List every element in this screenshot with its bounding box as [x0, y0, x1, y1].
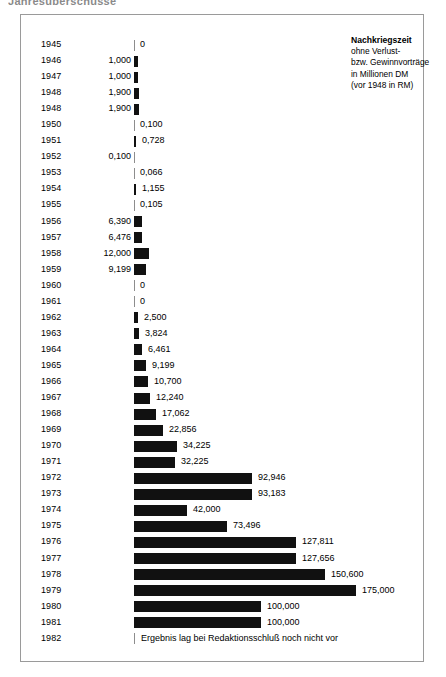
row-year-label: 1974: [41, 504, 75, 514]
chart-bar: [134, 184, 136, 195]
row-value-label: 0,728: [142, 135, 165, 145]
row-value-label: 6,476: [69, 232, 131, 242]
chart-row: 19500,100: [41, 117, 446, 133]
row-value-label: 1,000: [69, 55, 131, 65]
row-value-label: 0,066: [140, 167, 163, 177]
chart-bar: [134, 505, 187, 516]
chart-row: 196712,240: [41, 390, 446, 406]
chart-row: 1981100,000: [41, 615, 446, 631]
chart-row: 19541,155: [41, 181, 446, 197]
zero-axis-tick: [134, 633, 135, 644]
row-value-label: 17,062: [162, 408, 190, 418]
row-year-label: 1969: [41, 424, 75, 434]
row-value-label: 34,225: [183, 440, 211, 450]
chart-frame: Nachkriegszeit ohne Verlust- bzw. Gewinn…: [20, 14, 424, 662]
chart-row: 1982Ergebnis lag bei Redaktionsschluß no…: [41, 631, 446, 647]
chart-row: 197292,946: [41, 470, 446, 486]
zero-axis-tick: [134, 168, 135, 179]
chart-bar: [134, 569, 325, 580]
row-value-label: 0,105: [140, 199, 163, 209]
row-year-label: 1951: [41, 135, 75, 145]
row-value-label: 0: [140, 296, 145, 306]
row-value-label: 32,225: [181, 456, 209, 466]
chart-row: 19633,824: [41, 326, 446, 342]
chart-row: 19461,000: [41, 53, 446, 69]
chart-bar: [134, 376, 148, 387]
row-year-label: 1960: [41, 280, 75, 290]
row-note: Ergebnis lag bei Redaktionsschluß noch n…: [141, 633, 338, 643]
chart-bar: [134, 601, 261, 612]
chart-row: 197573,496: [41, 518, 446, 534]
row-year-label: 1945: [41, 39, 75, 49]
chart-row: 19450: [41, 37, 446, 53]
chart-bar: [134, 104, 139, 115]
chart-row: 1980100,000: [41, 599, 446, 615]
chart-row: 197393,183: [41, 486, 446, 502]
chart-row: 196610,700: [41, 374, 446, 390]
row-value-label: 0: [140, 280, 145, 290]
row-year-label: 1981: [41, 617, 75, 627]
chart-row: 19599,199: [41, 262, 446, 278]
chart-row: 1977127,656: [41, 551, 446, 567]
row-value-label: 12,000: [69, 248, 131, 258]
row-year-label: 1964: [41, 344, 75, 354]
zero-axis-tick: [134, 152, 135, 163]
chart-row: 19481,900: [41, 85, 446, 101]
row-year-label: 1963: [41, 328, 75, 338]
chart-page: Jahresüberschüsse Nachkriegszeit ohne Ve…: [0, 0, 446, 677]
row-year-label: 1961: [41, 296, 75, 306]
row-value-label: 1,000: [69, 71, 131, 81]
chart-bar: [134, 521, 227, 532]
row-value-label: 6,390: [69, 216, 131, 226]
row-year-label: 1953: [41, 167, 75, 177]
row-value-label: 9,199: [69, 264, 131, 274]
row-value-label: 1,900: [69, 87, 131, 97]
row-value-label: 73,496: [233, 520, 261, 530]
row-year-label: 1979: [41, 585, 75, 595]
row-value-label: 10,700: [154, 376, 182, 386]
row-value-label: 93,183: [258, 488, 286, 498]
row-year-label: 1982: [41, 633, 75, 643]
chart-row: 197442,000: [41, 502, 446, 518]
chart-bar: [134, 248, 149, 259]
row-year-label: 1970: [41, 440, 75, 450]
row-year-label: 1950: [41, 119, 75, 129]
row-year-label: 1967: [41, 392, 75, 402]
chart-row: 19610: [41, 294, 446, 310]
chart-bar: [134, 393, 150, 404]
zero-axis-tick: [134, 296, 135, 307]
chart-bar: [134, 216, 142, 227]
row-value-label: 100,000: [267, 617, 300, 627]
row-value-label: 0,100: [69, 151, 131, 161]
chart-row: 19622,500: [41, 310, 446, 326]
row-year-label: 1966: [41, 376, 75, 386]
zero-axis-tick: [134, 40, 135, 51]
row-value-label: 12,240: [156, 392, 184, 402]
row-value-label: 0: [140, 39, 145, 49]
row-value-label: 150,600: [331, 569, 364, 579]
row-value-label: 127,656: [302, 553, 335, 563]
row-year-label: 1975: [41, 520, 75, 530]
chart-row: 1976127,811: [41, 534, 446, 550]
row-value-label: 2,500: [144, 312, 167, 322]
chart-row: 19550,105: [41, 197, 446, 213]
chart-bar: [134, 537, 296, 548]
chart-bar: [134, 489, 252, 500]
chart-bar: [134, 264, 146, 275]
chart-bar: [134, 360, 146, 371]
chart-bar: [134, 232, 142, 243]
chart-row: 196817,062: [41, 406, 446, 422]
chart-row: 195812,000: [41, 246, 446, 262]
row-year-label: 1968: [41, 408, 75, 418]
chart-bar: [134, 617, 261, 628]
zero-axis-tick: [134, 200, 135, 211]
chart-row: 19659,199: [41, 358, 446, 374]
cutoff-headline-text: Jahresüberschüsse: [8, 0, 116, 7]
row-value-label: 100,000: [267, 601, 300, 611]
chart-bar: [134, 553, 296, 564]
row-year-label: 1954: [41, 183, 75, 193]
chart-row: 19510,728: [41, 133, 446, 149]
row-value-label: 0,100: [140, 119, 163, 129]
zero-axis-tick: [134, 280, 135, 291]
chart-row: 196922,856: [41, 422, 446, 438]
